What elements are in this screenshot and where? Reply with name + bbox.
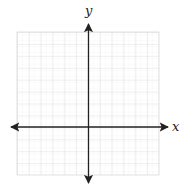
x-axis-label: x	[172, 119, 180, 134]
coordinate-plane: x y	[0, 0, 184, 185]
y-axis-label: y	[84, 3, 93, 18]
